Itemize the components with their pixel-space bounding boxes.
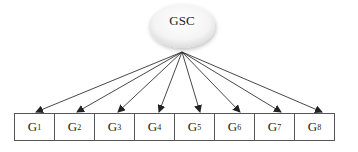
indicator-box-g2: G2 [54, 113, 95, 141]
edge-gsc-g1 [36, 52, 182, 112]
edge-gsc-g4 [159, 52, 182, 112]
indicator-box-g8: G8 [294, 113, 335, 141]
indicator-box-g7: G7 [254, 113, 295, 141]
edge-gsc-g2 [77, 52, 182, 112]
gsc-label: GSC [150, 13, 214, 29]
indicator-box-g3: G3 [94, 113, 135, 141]
edge-gsc-g8 [182, 52, 322, 112]
indicator-box-g1: G1 [14, 113, 55, 141]
edges [36, 52, 322, 112]
indicator-box-g4: G4 [134, 113, 175, 141]
indicator-row: G1 G2 G3 G4 G5 G6 G7 G8 [14, 113, 335, 141]
edge-gsc-g3 [118, 52, 182, 112]
indicator-box-g5: G5 [174, 113, 215, 141]
indicator-box-g6: G6 [214, 113, 255, 141]
